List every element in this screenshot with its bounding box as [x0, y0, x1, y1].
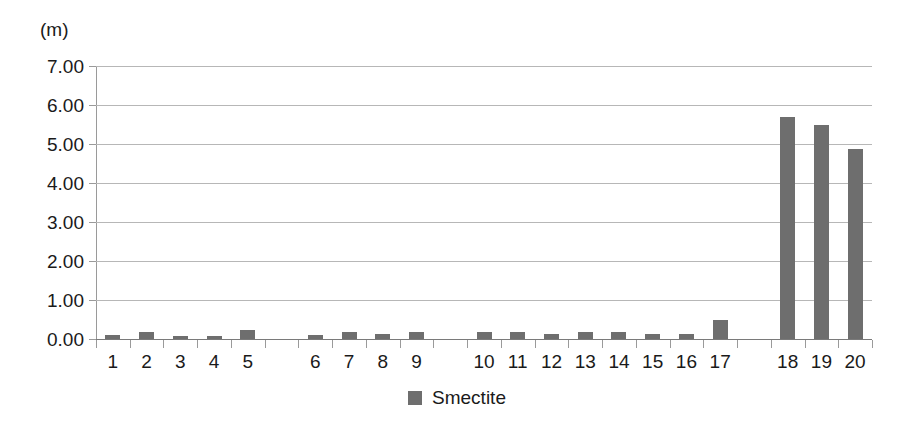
x-axis-tick: [568, 340, 569, 348]
bar: [409, 332, 424, 339]
y-axis-tick-label: 1.00: [4, 291, 84, 310]
y-axis-tick-label: 7.00: [4, 57, 84, 76]
x-axis-tick-label: 17: [700, 352, 740, 372]
x-axis-tick-label: 20: [835, 352, 875, 372]
bar: [139, 332, 154, 339]
bar: [814, 125, 829, 340]
x-axis-tick: [670, 340, 671, 348]
x-axis-tick: [366, 340, 367, 348]
chart-legend: Smectite: [0, 388, 914, 408]
x-axis-tick: [737, 340, 738, 348]
bar: [510, 332, 525, 339]
y-axis-tick-label: 5.00: [4, 135, 84, 154]
x-axis-tick: [298, 340, 299, 348]
x-axis-tick: [96, 340, 97, 348]
y-axis-tick-label: 6.00: [4, 96, 84, 115]
bars-layer: [96, 66, 872, 339]
x-axis-tick: [467, 340, 468, 348]
x-axis-tick: [838, 340, 839, 348]
bar: [780, 117, 795, 339]
bar: [578, 332, 593, 339]
y-axis-tick-label: 0.00: [4, 330, 84, 349]
legend-item-label: Smectite: [432, 388, 506, 408]
x-axis-tick: [130, 340, 131, 348]
y-axis-tick: [89, 66, 96, 67]
x-axis-tick-label: 9: [397, 352, 437, 372]
bar: [713, 320, 728, 340]
x-axis-line: [96, 339, 872, 340]
bar: [240, 330, 255, 339]
x-axis-tick: [501, 340, 502, 348]
bar: [477, 332, 492, 339]
x-axis-tick: [163, 340, 164, 348]
x-axis-tick-label: 5: [228, 352, 268, 372]
x-axis-tick: [535, 340, 536, 348]
legend-item-smectite: Smectite: [408, 388, 506, 408]
bar: [342, 332, 357, 339]
x-axis-tick: [400, 340, 401, 348]
y-axis-tick: [89, 300, 96, 301]
x-axis-tick: [805, 340, 806, 348]
y-axis-tick: [89, 105, 96, 106]
y-axis-tick: [89, 222, 96, 223]
y-axis-tick: [89, 144, 96, 145]
y-axis-tick: [89, 261, 96, 262]
x-axis-tick: [771, 340, 772, 348]
x-axis-tick: [433, 340, 434, 348]
bar-chart: (m) 7.006.005.004.003.002.001.000.00 123…: [0, 0, 914, 437]
bar: [611, 332, 626, 339]
y-axis-tick-label: 3.00: [4, 213, 84, 232]
legend-color-swatch-icon: [408, 391, 422, 405]
plot-area: [96, 66, 872, 339]
x-axis-tick: [602, 340, 603, 348]
x-axis-tick: [231, 340, 232, 348]
x-axis-tick: [197, 340, 198, 348]
y-axis-tick-label: 4.00: [4, 174, 84, 193]
x-axis-tick: [265, 340, 266, 348]
x-axis-tick: [872, 340, 873, 348]
x-axis-tick: [636, 340, 637, 348]
y-axis-tick: [89, 339, 96, 340]
bar: [848, 149, 863, 339]
x-axis-tick: [332, 340, 333, 348]
y-axis-tick-label: 2.00: [4, 252, 84, 271]
x-axis-tick: [703, 340, 704, 348]
y-axis-tick-labels: 7.006.005.004.003.002.001.000.00: [0, 0, 84, 437]
y-axis-tick: [89, 183, 96, 184]
